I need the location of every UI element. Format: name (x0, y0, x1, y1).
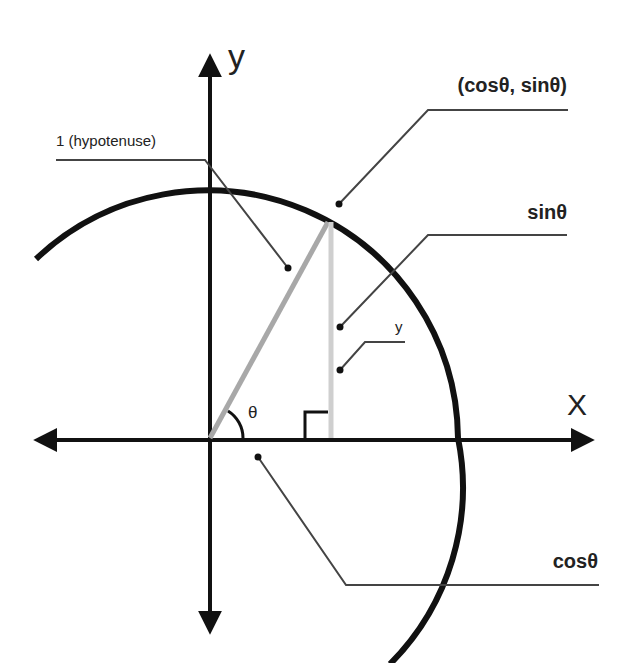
callout-sin-label: sinθ (527, 201, 567, 223)
unit-circle-diagram: y X θ (cosθ, sinθ) 1 (hypotenuse) sinθ y… (0, 0, 623, 663)
callout-y-label: y (395, 318, 403, 335)
callout-cos-label: cosθ (553, 550, 598, 572)
leader-dot-cos (255, 454, 262, 461)
theta-label: θ (248, 403, 257, 422)
hypotenuse-line (210, 222, 328, 438)
leader-hypotenuse (56, 160, 288, 268)
leader-dot-hypotenuse (285, 265, 292, 272)
leader-point (339, 110, 568, 204)
y-axis-label: y (228, 37, 245, 75)
x-axis-label: X (567, 388, 587, 421)
angle-arc (228, 411, 243, 438)
right-angle-marker (305, 412, 328, 438)
leader-dot-point (336, 201, 343, 208)
leader-sin (340, 235, 567, 327)
leader-dot-sin (337, 324, 344, 331)
diagram-canvas: y X θ (cosθ, sinθ) 1 (hypotenuse) sinθ y… (0, 0, 623, 663)
leader-y (340, 342, 405, 370)
callout-point-label: (cosθ, sinθ) (458, 74, 567, 96)
unit-circle-arc (36, 190, 463, 663)
callout-hypotenuse-label: 1 (hypotenuse) (56, 132, 156, 149)
leader-dot-y (337, 367, 344, 374)
leader-cos (258, 457, 599, 585)
